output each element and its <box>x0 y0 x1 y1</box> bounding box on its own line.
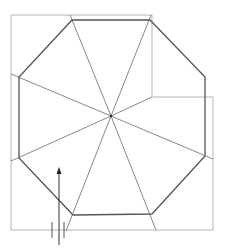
hip-ridge-line <box>111 15 151 116</box>
north-arrow-head-icon <box>57 167 62 174</box>
hip-ridge-line <box>111 116 213 159</box>
hip-ridge-line <box>70 15 111 116</box>
hip-ridges <box>11 15 213 231</box>
hip-ridge-line <box>11 74 111 116</box>
roof-plan-diagram <box>0 0 225 249</box>
hip-ridge-line <box>111 116 156 230</box>
north-arrow <box>52 167 64 245</box>
roof-apex <box>110 115 112 117</box>
building-outline <box>11 15 213 230</box>
